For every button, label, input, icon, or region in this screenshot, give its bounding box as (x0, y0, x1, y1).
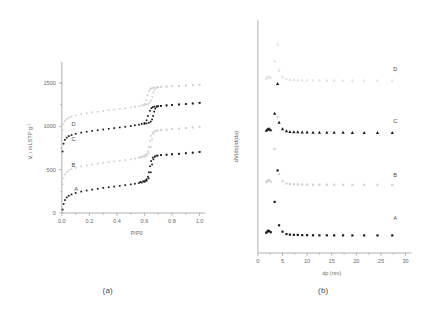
panel-b-data-point (269, 231, 271, 233)
panel-a-data-point (68, 195, 70, 197)
panel-a-data-point (63, 143, 65, 145)
panel-a-x-tick-label: 0.0 (58, 218, 66, 224)
panel-b-data-point (292, 234, 294, 236)
panel-a-data-point (160, 86, 162, 88)
panel-a-data-point (160, 105, 162, 107)
panel-a-data-point (102, 110, 104, 112)
panel-a-data-point (91, 164, 93, 166)
panel-a-data-point (150, 121, 152, 123)
panel-b-series-label: D (393, 66, 397, 72)
panel-a-data-point (153, 158, 155, 160)
panel-b-series (264, 43, 393, 237)
panel-b-data-point (276, 116, 278, 118)
panel-a-data-point (151, 119, 153, 121)
panel-a-data-point (185, 152, 187, 154)
panel-a-data-point (199, 126, 201, 128)
panel-a-data-point (75, 114, 77, 116)
panel-a-data-point (171, 128, 173, 130)
panel-b-data-point (325, 234, 327, 236)
panel-a-data-point (148, 152, 150, 154)
panel-a-data-point (151, 96, 153, 98)
panel-b-data-point (362, 79, 365, 82)
panel-b-data-point (375, 131, 378, 134)
panel-a-data-point (157, 86, 159, 88)
panel-a-data-point (97, 129, 99, 131)
panel-b-data-point (277, 224, 279, 226)
panel-a-data-point (149, 102, 151, 104)
panel-b-data-point (306, 234, 308, 236)
panel-b-data-point (333, 184, 335, 186)
panel-b-x-tick-label: 15 (328, 258, 334, 264)
panel-b-x-tick-label: 10 (304, 258, 310, 264)
panel-a-data-point (124, 126, 126, 128)
panel-a-caption: (a) (0, 286, 216, 295)
panel-a-data-point (113, 186, 115, 188)
panel-a-data-point (64, 174, 66, 176)
panel-a-data-point (192, 103, 194, 105)
panel-a-data-point (130, 107, 132, 109)
panel-a: 0500100015000.00.20.40.60.81.0P/P0V, / m… (0, 0, 216, 309)
panel-a-data-point (148, 122, 150, 124)
panel-b-data-point (275, 82, 278, 85)
panel-b-data-point (277, 121, 280, 124)
panel-b-data-point (376, 184, 378, 186)
panel-b-x-tick-label: 5 (280, 258, 283, 264)
panel-a-data-point (154, 130, 156, 132)
panel-b-data-point (305, 131, 308, 134)
panel-a-data-point (140, 156, 142, 158)
panel-a-data-point (154, 106, 156, 108)
panel-a-data-point (145, 100, 147, 102)
panel-a-axes (59, 62, 206, 216)
panel-b-data-point (317, 79, 320, 82)
panel-a-data-point (75, 192, 77, 194)
panel-b-data-point (300, 130, 303, 133)
panel-a-data-point (75, 133, 77, 135)
panel-b-x-tick-label: 25 (377, 258, 383, 264)
panel-a-data-point (153, 87, 155, 89)
panel-b-data-point (332, 131, 335, 134)
panel-b-data-point (292, 183, 294, 185)
panel-a-data-point (152, 132, 154, 134)
panel-a-data-point (119, 185, 121, 187)
panel-a-data-point (138, 105, 140, 107)
panel-a-data-point (124, 107, 126, 109)
panel-a-data-point (119, 127, 121, 129)
panel-a-data-point (148, 146, 150, 148)
panel-a-data-point (178, 104, 180, 106)
panel-b-data-point (311, 78, 314, 81)
panel-a-data-point (64, 139, 66, 141)
panel-b-x-axis-title: dp (nm) (322, 270, 341, 276)
panel-a-data-point (152, 157, 154, 159)
panel-a-data-point (68, 170, 70, 172)
panel-a-data-point (134, 183, 136, 185)
panel-a-data-point (144, 155, 146, 157)
panel-a-data-point (119, 108, 121, 110)
panel-b-data-point (362, 131, 365, 134)
panel-b-series-label: C (393, 118, 397, 124)
panel-a-data-point (71, 116, 73, 118)
panel-b-series-label: A (393, 215, 397, 221)
panel-b-data-point (273, 60, 276, 63)
panel-b-data-point (341, 234, 343, 236)
panel-a-data-point (138, 124, 140, 126)
panel-b-data-point (273, 201, 275, 203)
panel-a-data-point (124, 159, 126, 161)
panel-a-series (62, 84, 201, 211)
panel-b-data-point (269, 181, 271, 183)
panel-b-data-point (280, 75, 283, 78)
panel-a-data-point (143, 104, 145, 106)
panel-b-data-point (332, 79, 335, 82)
panel-a-data-point (64, 199, 66, 201)
panel-a-data-point (140, 181, 142, 183)
panel-a-data-point (102, 129, 104, 131)
panel-a-data-point (153, 92, 155, 94)
figure-container: 0500100015000.00.20.40.60.81.0P/P0V, / m… (0, 0, 431, 309)
panel-a-data-point (66, 171, 68, 173)
panel-a-data-point (63, 203, 65, 205)
panel-a-data-point (142, 155, 144, 157)
panel-b-data-point (305, 78, 308, 81)
panel-a-data-point (147, 103, 149, 105)
panel-b-data-point (296, 130, 299, 133)
panel-a-data-point (150, 160, 152, 162)
panel-a-data-point (134, 124, 136, 126)
